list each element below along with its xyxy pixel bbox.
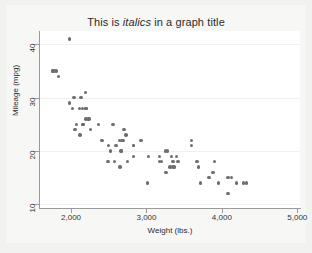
y-axis-line [39, 31, 40, 209]
y-tick-label-30: 30 [28, 97, 37, 137]
scatter-point [146, 181, 149, 184]
scatter-point [207, 176, 210, 179]
scatter-point [100, 139, 103, 142]
scatter-point [113, 160, 116, 163]
scatter-point [106, 160, 109, 163]
scatter-point [122, 128, 125, 131]
y-tick-label-10: 10 [28, 204, 37, 244]
scatter-point [51, 69, 54, 72]
scatter-point [87, 117, 90, 120]
scatter-point [107, 144, 110, 147]
scatter-point [72, 96, 75, 99]
scatter-point [158, 155, 161, 158]
y-tick-label-40: 40 [28, 44, 37, 84]
scatter-point [175, 155, 178, 158]
scatter-point [84, 107, 87, 110]
scatter-point [109, 149, 112, 152]
scatter-point [197, 165, 200, 168]
x-tick-label-4000: 4,000 [202, 213, 242, 222]
gridline-y-10 [40, 204, 300, 205]
x-tick-label-3000: 3,000 [126, 213, 166, 222]
scatter-point [160, 160, 163, 163]
scatter-point [168, 165, 171, 168]
chart-title-before: This is [87, 16, 123, 28]
scatter-point [79, 96, 82, 99]
scatter-point [54, 69, 57, 72]
scatter-point [121, 139, 124, 142]
chart-title: This is italics in a graph title [0, 16, 312, 28]
scatter-point [213, 160, 216, 163]
scatter-point [245, 181, 248, 184]
scatter-point [190, 144, 193, 147]
scatter-point [211, 171, 214, 174]
scatter-point [75, 123, 78, 126]
scatter-point [124, 133, 127, 136]
scatter-point [68, 37, 71, 40]
scatter-point [84, 117, 87, 120]
scatter-point [164, 171, 167, 174]
x-tick-label-5000: 5,000 [277, 213, 312, 222]
y-axis-title: Mileage (mpg) [11, 51, 20, 131]
scatter-point [57, 75, 60, 78]
scatter-point [71, 107, 74, 110]
scatter-point [166, 149, 169, 152]
scatter-point [199, 181, 202, 184]
scatter-point [81, 123, 84, 126]
scatter-point [176, 160, 179, 163]
gridline-y-20 [40, 151, 300, 152]
scatter-point [226, 192, 229, 195]
scatter-point [132, 155, 135, 158]
scatter-point [68, 101, 71, 104]
scatter-point [119, 149, 122, 152]
scatter-point [230, 176, 233, 179]
scatter-point [111, 123, 114, 126]
scatter-point [84, 91, 87, 94]
scatter-point [78, 133, 81, 136]
scatter-point [114, 144, 117, 147]
scatter-point [170, 155, 173, 158]
y-tick-label-20: 20 [28, 150, 37, 190]
scatter-point [171, 160, 174, 163]
scatter-point [217, 181, 220, 184]
gridline-y-40 [40, 44, 300, 45]
scatter-point [173, 165, 176, 168]
scatter-point [126, 160, 129, 163]
scatter-point [73, 128, 76, 131]
scatter-point [139, 139, 142, 142]
scatter-point [89, 128, 92, 131]
scatter-point [235, 181, 238, 184]
chart-title-after: in a graph title [151, 16, 225, 28]
scatter-point [97, 123, 100, 126]
x-axis-title: Weight (lbs.) [40, 226, 300, 235]
x-axis-line [39, 208, 301, 209]
scatter-point [147, 155, 150, 158]
graph-window: This is italics in a graph title 1020304… [0, 0, 312, 253]
scatter-point [190, 139, 193, 142]
chart-title-italic: italics [123, 16, 151, 28]
scatter-point [118, 165, 121, 168]
scatter-point [195, 160, 198, 163]
scatter-point [132, 144, 135, 147]
x-tick-label-2000: 2,000 [51, 213, 91, 222]
plot-area [40, 31, 300, 208]
